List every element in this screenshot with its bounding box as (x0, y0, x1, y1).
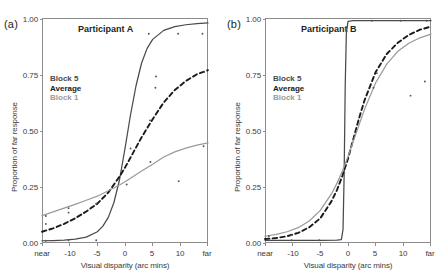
data-point (291, 239, 293, 241)
data-point (291, 234, 293, 236)
data-point (177, 33, 179, 35)
data-point (202, 33, 204, 35)
data-point (178, 180, 180, 182)
series-block-5 (265, 21, 431, 241)
data-point (155, 76, 157, 78)
data-point (68, 207, 70, 209)
data-point (203, 71, 205, 73)
data-point (268, 235, 270, 237)
series-block-1 (42, 143, 208, 216)
data-point (95, 203, 97, 205)
data-point (268, 239, 270, 241)
series-average (265, 27, 431, 239)
panel-a-curves (0, 0, 223, 280)
data-point (373, 87, 375, 89)
series-block-5 (42, 23, 208, 241)
data-point (149, 119, 151, 121)
data-point (154, 87, 156, 89)
data-point (95, 239, 97, 241)
data-point (68, 239, 70, 241)
panel-b-curves (223, 0, 446, 280)
panel-b: (b) 0.00 0.25 0.50 0.75 1.00 near -10 -5… (223, 0, 446, 280)
data-point (376, 72, 378, 74)
data-point (130, 148, 132, 150)
data-point (148, 33, 150, 35)
data-point (424, 81, 426, 83)
data-point (150, 161, 152, 163)
data-point (45, 223, 47, 225)
data-point (45, 215, 47, 217)
data-point (400, 20, 402, 22)
panel-a: (a) 0.00 0.25 0.50 0.75 1.00 near -10 -5… (0, 0, 223, 280)
data-point (371, 20, 373, 22)
data-point (126, 184, 128, 186)
data-point (426, 20, 428, 22)
figure-container: (a) 0.00 0.25 0.50 0.75 1.00 near -10 -5… (0, 0, 446, 280)
data-point (68, 212, 70, 214)
data-point (45, 240, 47, 242)
series-block-1 (265, 34, 431, 236)
data-point (410, 95, 412, 97)
data-point (318, 239, 320, 241)
data-point (203, 145, 205, 147)
